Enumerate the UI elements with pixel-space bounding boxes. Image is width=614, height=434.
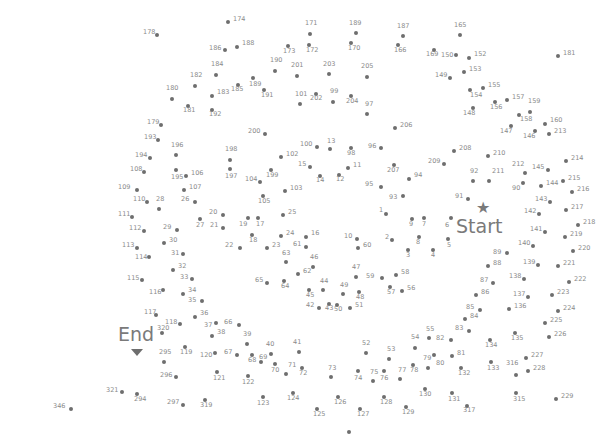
dot-number-label: 58 [401,269,409,276]
puzzle-dot [556,309,560,313]
dot-number-label: 202 [310,95,322,102]
puzzle-dot [449,338,453,342]
puzzle-dot [178,322,182,326]
dot-number-label: 207 [387,167,399,174]
dot-number-label: 125 [313,411,325,418]
dot-number-label: 182 [190,72,202,79]
puzzle-dot [563,235,567,239]
dot-number-label: 104 [245,176,257,183]
dot-number-label: 119 [180,349,192,356]
dot-number-label: 88 [493,260,501,267]
dot-number-label: 152 [474,51,486,58]
puzzle-dot [308,32,312,36]
dot-number-label: 63 [282,250,290,257]
puzzle-dot [547,335,551,339]
dot-number-label: 127 [357,411,369,418]
puzzle-dot [523,171,527,175]
puzzle-dot [295,74,299,78]
dot-number-label: 6 [445,222,449,229]
dot-number-label: 25 [288,209,296,216]
puzzle-dot [279,234,283,238]
dot-number-label: 57 [387,289,395,296]
dot-number-label: 156 [490,104,502,111]
puzzle-dot [69,407,73,411]
puzzle-dot [284,260,288,264]
puzzle-dot [327,72,331,76]
dot-number-label: 170 [348,45,360,52]
dot-number-label: 13 [327,138,335,145]
puzzle-dot [283,189,287,193]
puzzle-dot [564,159,568,163]
dot-number-label: 50 [334,306,342,313]
dot-number-label: 219 [570,231,582,238]
dot-number-label: 30 [169,237,177,244]
puzzle-dot [273,69,277,73]
dot-number-label: 315 [513,396,525,403]
dot-number-label: 220 [578,245,590,252]
dot-number-label: 89 [493,249,501,256]
dot-number-label: 229 [561,393,573,400]
dot-number-label: 211 [492,168,504,175]
dot-number-label: 155 [488,82,500,89]
dot-number-label: 196 [171,142,183,149]
puzzle-dot [505,251,509,255]
puzzle-dot [486,154,490,158]
dot-number-label: 46 [310,254,318,261]
puzzle-dot [458,33,462,37]
puzzle-dot [365,75,369,79]
dot-number-label: 145 [532,164,544,171]
dot-number-label: 129 [402,409,414,416]
dot-number-label: 226 [554,331,566,338]
dot-number-label: 102 [286,151,298,158]
puzzle-dot [174,153,178,157]
dot-number-label: 99 [330,88,338,95]
puzzle-dot [387,357,391,361]
dot-number-label: 225 [550,317,562,324]
puzzle-dot [265,281,269,285]
dot-number-label: 103 [290,185,302,192]
puzzle-dot [140,278,144,282]
dot-number-label: 81 [457,350,465,357]
dot-number-label: 218 [583,219,595,226]
puzzle-dot [120,390,124,394]
dot-number-label: 94 [414,172,422,179]
puzzle-dot [514,373,518,377]
dot-number-label: 51 [355,302,363,309]
dot-number-label: 22 [225,242,233,249]
star-icon: ★ [476,200,490,216]
puzzle-dot [491,281,495,285]
puzzle-dot [281,213,285,217]
dot-number-label: 19 [239,221,247,228]
dot-number-label: 37 [204,322,212,329]
dot-number-label: 15 [298,161,306,168]
dot-number-label: 1 [379,207,383,214]
puzzle-dot [156,138,160,142]
dot-number-label: 139 [523,259,535,266]
dot-number-label: 66 [224,319,232,326]
puzzle-dot [142,229,146,233]
puzzle-dot [467,329,471,333]
dot-to-dot-puzzle: 1741781861881711731721891701871661651691… [0,0,614,434]
puzzle-dot [524,356,528,360]
dot-number-label: 198 [225,146,237,153]
puzzle-dot [356,246,360,250]
puzzle-dot [159,123,163,127]
dot-number-label: 101 [295,91,307,98]
puzzle-dot [543,321,547,325]
puzzle-dot [315,145,319,149]
dot-number-label: 221 [563,260,575,267]
puzzle-dot [311,265,315,269]
puzzle-dot [364,351,368,355]
dot-number-label: 92 [470,168,478,175]
dot-number-label: 49 [340,282,348,289]
dot-number-label: 112 [129,225,141,232]
puzzle-dot [478,308,482,312]
puzzle-dot [181,292,185,296]
puzzle-dot [355,237,359,241]
dot-number-label: 134 [485,342,497,349]
dot-number-label: 75 [370,369,378,376]
dot-number-label: 173 [283,48,295,55]
puzzle-dot [550,293,554,297]
dot-number-label: 133 [487,365,499,372]
dot-number-label: 34 [188,287,196,294]
